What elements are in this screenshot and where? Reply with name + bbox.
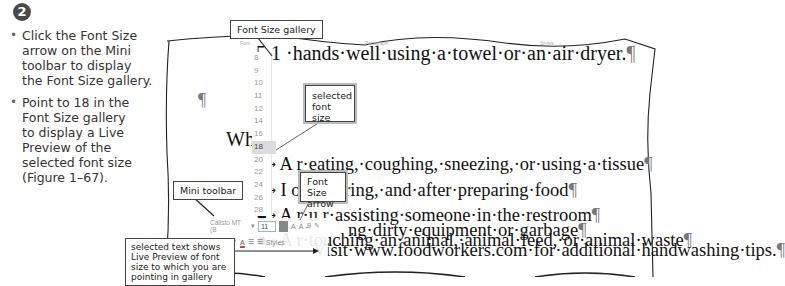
callout-live-preview: selected text shows Live Preview of font… bbox=[125, 238, 235, 286]
callout-font-size-arrow: Font Size arrow bbox=[300, 172, 346, 202]
callout-font-size-gallery: Font Size gallery bbox=[230, 20, 323, 39]
callout-mini-toolbar: Mini toolbar bbox=[173, 181, 243, 200]
callout-selected-font-size: selected font size bbox=[305, 85, 355, 122]
